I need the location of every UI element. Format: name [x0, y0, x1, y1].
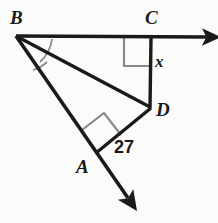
segment-label-x: x	[155, 53, 164, 70]
ray-ba	[16, 36, 128, 198]
segment-bd	[16, 36, 150, 107]
right-angle-c-mark	[124, 38, 151, 66]
right-angle-a-mark	[82, 113, 121, 135]
vertex-label-d: D	[156, 100, 170, 119]
segment-cd	[150, 38, 151, 108]
ray-bc	[16, 36, 206, 37]
figure-canvas	[0, 0, 218, 223]
vertex-label-c: C	[145, 8, 158, 27]
vertex-label-a: A	[76, 157, 89, 176]
vertex-label-b: B	[10, 8, 23, 27]
geometry-figure: B C D A x 27	[0, 0, 218, 223]
segment-label-27: 27	[114, 138, 134, 156]
